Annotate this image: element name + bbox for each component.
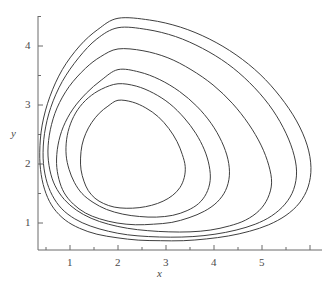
y-tick-label: 2 [25, 158, 31, 169]
y-tick-label: 4 [25, 40, 31, 51]
y-tick-label: 3 [25, 99, 31, 110]
x-tick-label: 5 [259, 257, 265, 268]
x-tick-label: 2 [115, 257, 121, 268]
orbit-curve [80, 100, 185, 208]
y-tick-label: 1 [25, 217, 31, 228]
plot-canvas [0, 0, 327, 292]
x-axis-label: x [157, 268, 162, 279]
x-tick-label: 3 [163, 257, 169, 268]
y-axis-label: y [11, 128, 16, 139]
x-tick-label: 4 [211, 257, 217, 268]
y-axis-ticks [38, 17, 43, 224]
x-axis-ticks [46, 245, 310, 250]
orbit-curves-group [40, 18, 311, 241]
phase-portrait-figure: 123451234 x y [0, 0, 327, 292]
axes-group [38, 16, 322, 250]
x-tick-label: 1 [67, 257, 73, 268]
orbit-curve [48, 49, 272, 232]
orbit-curve [40, 18, 311, 241]
